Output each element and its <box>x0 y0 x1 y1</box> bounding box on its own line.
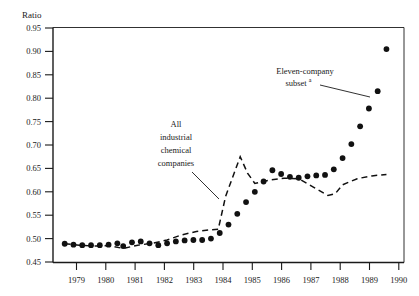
ratio-line-chart: Ratio 0.95 0.90 0.85 0.80 0.75 <box>0 0 419 296</box>
series-all-industrial-chemical-companies <box>65 157 387 249</box>
series-marker-eleven-company <box>348 141 354 147</box>
y-tick-0.50: 0.50 <box>26 234 53 244</box>
y-tick-label: 0.75 <box>26 117 41 127</box>
series-marker-eleven-company <box>147 240 153 246</box>
annotation-all-industrial-leader <box>192 172 219 199</box>
series-marker-eleven-company <box>191 237 197 243</box>
annotation-eleven-company-line2: subset <box>285 78 307 88</box>
series-marker-eleven-company <box>305 173 311 179</box>
annotation-all-industrial-line2: industrial <box>160 132 193 142</box>
series-marker-eleven-company <box>138 239 144 245</box>
series-marker-eleven-company <box>120 243 126 249</box>
series-marker-eleven-company <box>79 242 85 248</box>
x-tick-label: 1982 <box>156 275 173 285</box>
y-tick-label: 0.70 <box>26 140 41 150</box>
chart-page: Ratio 0.95 0.90 0.85 0.80 0.75 <box>0 0 419 296</box>
y-axis-ticks: 0.95 0.90 0.85 0.80 0.75 0.70 <box>26 23 53 267</box>
series-line-all-industrial <box>65 157 387 249</box>
series-marker-eleven-company <box>269 167 275 173</box>
y-tick-0.80: 0.80 <box>26 93 53 103</box>
series-marker-eleven-company <box>287 174 293 180</box>
x-tick-label: 1979 <box>68 275 85 285</box>
series-marker-eleven-company <box>313 173 319 179</box>
x-tick-label: 1981 <box>127 275 144 285</box>
y-tick-label: 0.55 <box>26 210 41 220</box>
series-marker-eleven-company <box>375 88 381 94</box>
series-marker-eleven-company <box>129 239 135 245</box>
annotation-eleven-company-leader <box>320 85 370 97</box>
annotation-all-industrial-line4: companies <box>158 158 194 168</box>
y-tick-0.60: 0.60 <box>26 187 53 197</box>
series-eleven-company-subset <box>62 46 390 249</box>
x-tick-1989: 1989 <box>361 263 378 286</box>
annotation-all-industrial-line1: All <box>171 119 183 129</box>
y-tick-0.95: 0.95 <box>26 23 53 33</box>
x-tick-label: 1986 <box>273 275 290 285</box>
y-tick-label: 0.80 <box>26 93 41 103</box>
annotation-eleven-company-footnote-marker: a <box>309 77 312 83</box>
series-marker-eleven-company <box>331 166 337 172</box>
series-marker-eleven-company <box>106 242 112 248</box>
x-tick-1985: 1985 <box>244 263 261 286</box>
series-marker-eleven-company <box>234 211 240 217</box>
x-tick-1987: 1987 <box>302 263 319 286</box>
series-marker-eleven-company <box>252 189 258 195</box>
series-marker-eleven-company <box>226 222 232 228</box>
y-tick-0.65: 0.65 <box>26 163 53 173</box>
x-tick-1990: 1990 <box>390 263 407 286</box>
x-tick-label: 1987 <box>302 275 319 285</box>
series-marker-eleven-company <box>217 230 223 236</box>
y-tick-label: 0.50 <box>26 234 41 244</box>
y-tick-label: 0.45 <box>26 257 41 267</box>
y-tick-0.90: 0.90 <box>26 46 53 56</box>
y-tick-0.75: 0.75 <box>26 117 53 127</box>
x-tick-label: 1985 <box>244 275 261 285</box>
y-tick-label: 0.65 <box>26 163 41 173</box>
series-marker-eleven-company <box>199 237 205 243</box>
x-tick-1980: 1980 <box>97 263 114 286</box>
y-tick-label: 0.90 <box>26 46 41 56</box>
x-tick-1982: 1982 <box>156 263 173 286</box>
annotation-all-industrial-line3: chemical <box>161 145 192 155</box>
x-tick-1979: 1979 <box>68 263 85 286</box>
y-tick-label: 0.85 <box>26 70 41 80</box>
y-tick-0.85: 0.85 <box>26 70 53 80</box>
series-marker-eleven-company <box>296 175 302 181</box>
series-marker-eleven-company <box>182 238 188 244</box>
series-marker-eleven-company <box>322 172 328 178</box>
y-tick-0.45: 0.45 <box>26 257 53 267</box>
series-marker-eleven-company <box>62 241 68 247</box>
series-marker-eleven-company <box>278 171 284 177</box>
x-tick-1981: 1981 <box>127 263 144 286</box>
x-axis-ticks: 1979 1980 1981 1982 1983 1984 <box>68 263 407 286</box>
annotation-eleven-company: Eleven-company subset a <box>276 66 370 97</box>
y-tick-0.70: 0.70 <box>26 140 53 150</box>
x-tick-label: 1988 <box>332 275 349 285</box>
series-marker-eleven-company <box>340 155 346 161</box>
series-marker-eleven-company <box>366 106 372 112</box>
series-marker-eleven-company <box>357 123 363 129</box>
series-marker-eleven-company <box>243 199 249 205</box>
series-marker-eleven-company <box>164 240 170 246</box>
x-tick-1983: 1983 <box>185 263 202 286</box>
x-tick-label: 1990 <box>390 275 407 285</box>
annotation-all-industrial: All industrial chemical companies <box>158 119 219 199</box>
x-tick-1986: 1986 <box>273 263 290 286</box>
series-marker-eleven-company <box>173 239 179 245</box>
series-marker-eleven-company <box>384 46 390 52</box>
x-tick-label: 1989 <box>361 275 378 285</box>
series-marker-eleven-company <box>261 179 267 185</box>
y-axis-title: Ratio <box>22 10 42 20</box>
series-marker-eleven-company <box>208 236 214 242</box>
series-marker-eleven-company <box>88 242 94 248</box>
series-marker-eleven-company <box>114 240 120 246</box>
annotation-eleven-company-line1: Eleven-company <box>276 66 334 76</box>
x-tick-1988: 1988 <box>332 263 349 286</box>
x-tick-label: 1980 <box>97 275 114 285</box>
y-tick-label: 0.60 <box>26 187 41 197</box>
series-marker-eleven-company <box>155 242 161 248</box>
series-marker-eleven-company <box>71 242 77 248</box>
x-tick-label: 1984 <box>215 275 233 285</box>
y-tick-label: 0.95 <box>26 23 41 33</box>
series-marker-eleven-company <box>97 242 103 248</box>
